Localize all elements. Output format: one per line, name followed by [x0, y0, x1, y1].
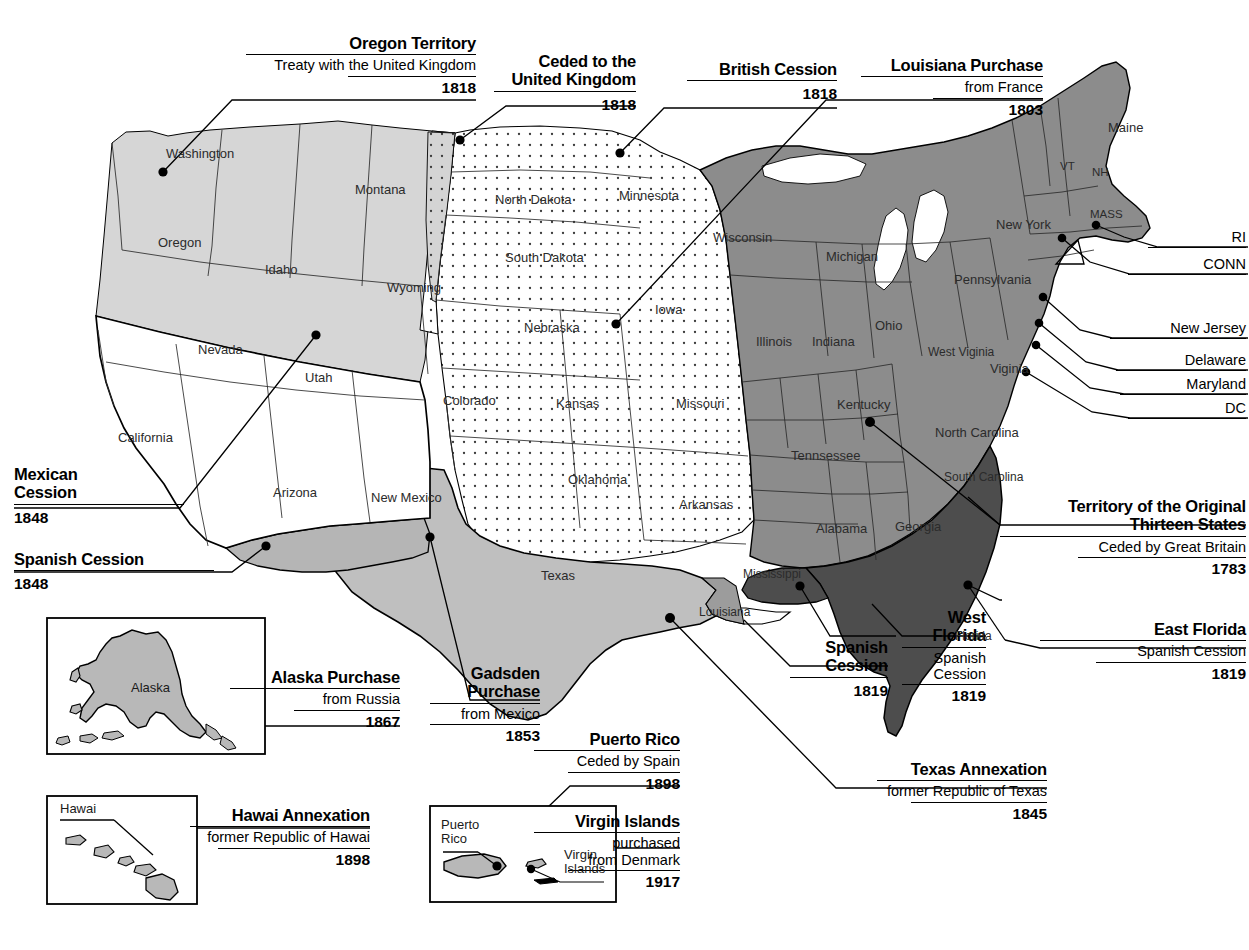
state-label-montana: Montana [355, 182, 406, 197]
callout-rhode-island: RI [1148, 229, 1246, 250]
callout-texas-annexation: Texas Annexation former Republic of Texa… [877, 760, 1047, 822]
callout-year: 1848 [14, 507, 184, 526]
callout-title: Hawai Annexation [190, 806, 370, 824]
callout-maryland: Maryland [1120, 376, 1246, 397]
state-label-nebraska: Nebraska [524, 320, 580, 335]
callout-year: 1845 [877, 805, 1047, 822]
callout-title: Gadsden Purchase [430, 664, 540, 701]
region-original-thirteen-states [700, 62, 1150, 568]
callout-puerto-rico: Puerto Rico Ceded by Spain 1898 [534, 730, 680, 792]
state-label-florida: Florida [955, 629, 992, 643]
state-label-pennsylvania: Pennsylvania [954, 272, 1031, 287]
state-label-north-carolina: North Carolina [935, 425, 1019, 440]
callout-subtitle: former Republic of Texas [877, 783, 1047, 799]
state-label-texas: Texas [541, 568, 575, 583]
callout-spanish-cession-west: Spanish Cession 1848 [14, 550, 214, 593]
state-label-nevada: Nevada [198, 342, 243, 357]
callout-year: 1917 [534, 873, 680, 890]
callout-east-florida: East Florida Spanish Cession 1819 [1040, 620, 1246, 682]
callout-louisiana-purchase: Louisiana Purchase from France 1803 [861, 56, 1043, 118]
callout-year: 1818 [687, 83, 837, 102]
state-label-ohio: Ohio [875, 318, 902, 333]
state-label-north-dakota: North Dakota [495, 192, 572, 207]
callout-title: Oregon Territory [246, 34, 476, 52]
callout-year: 1898 [190, 851, 370, 868]
callout-label: New Jersey [1110, 320, 1246, 336]
callout-year: 1819 [902, 687, 986, 704]
state-label-arkansas: Arkansas [679, 497, 733, 512]
callout-year: 1783 [1000, 560, 1246, 577]
callout-title: British Cession [687, 60, 837, 78]
callout-title: Ceded to the United Kingdom [494, 52, 636, 89]
state-label-mississippi: Mississippi [743, 567, 801, 581]
state-label-kentucky: Kentucky [837, 397, 890, 412]
state-label-new-mexico: New Mexico [371, 490, 442, 505]
callout-alaska-purchase: Alaska Purchase from Russia 1867 [230, 668, 400, 730]
state-label-new-hampshire: NH [1092, 166, 1109, 178]
state-label-alabama: Alabama [816, 521, 867, 536]
state-label-south-carolina: South Carolina [944, 470, 1023, 484]
state-label-tennessee: Tennsessee [791, 448, 860, 463]
callout-subtitle: Ceded by Great Britain [1000, 539, 1246, 555]
callout-year: 1867 [230, 713, 400, 730]
state-label-utah: Utah [305, 370, 332, 385]
callout-mexican-cession: Mexican Cession 1848 [14, 465, 184, 526]
state-label-virginia: Viginia [990, 361, 1029, 376]
callout-year: 1848 [14, 573, 214, 592]
inset-label-virgin-islands: Virgin Islands [564, 848, 605, 877]
callout-subtitle: Treaty with the United Kingdom [246, 57, 476, 73]
callout-subtitle: from Russia [230, 691, 400, 707]
callout-subtitle: Ceded by Spain [534, 753, 680, 769]
callout-label: Maryland [1120, 376, 1246, 392]
state-label-missouri: Missouri [676, 396, 724, 411]
callout-delaware: Delaware [1116, 352, 1246, 373]
callout-gadsden-purchase: Gadsden Purchase from Mexico 1853 [430, 664, 540, 745]
callout-ceded-to-uk: Ceded to the United Kingdom 1818 [494, 52, 636, 113]
callout-subtitle: from Mexico [430, 706, 540, 722]
state-label-louisiana: Louisiana [699, 605, 750, 619]
state-label-arizona: Arizona [273, 485, 317, 500]
state-label-indiana: Indiana [812, 334, 855, 349]
state-label-washington: Washington [166, 146, 234, 161]
state-label-illinois: Illinois [756, 334, 792, 349]
callout-year: 1819 [1040, 665, 1246, 682]
callout-spanish-cession-gulf: Spanish Cession 1819 [790, 638, 888, 699]
callout-subtitle: Spanish Cession [1040, 643, 1246, 659]
state-label-michigan: Michigan [826, 249, 878, 264]
state-label-oklahoma: Oklahoma [568, 472, 627, 487]
callout-title: Spanish Cession [790, 638, 888, 675]
callout-thirteen-states: Territory of the Original Thirteen State… [1000, 497, 1246, 578]
callout-label: CONN [1128, 256, 1246, 272]
state-label-minnesota: Minnesota [619, 188, 679, 203]
callout-dc: DC [1128, 400, 1246, 421]
state-label-california: California [118, 430, 173, 445]
callout-virgin-islands: Virgin Islands purchased from Denmark 19… [534, 812, 680, 890]
state-label-iowa: Iowa [655, 302, 682, 317]
callout-subtitle: from France [861, 79, 1043, 95]
state-label-wisconsin: Wisconsin [713, 230, 772, 245]
callout-new-jersey: New Jersey [1110, 320, 1246, 341]
callout-title: Puerto Rico [534, 730, 680, 748]
callout-label: Delaware [1116, 352, 1246, 368]
callout-title: East Florida [1040, 620, 1246, 638]
callout-connecticut: CONN [1128, 256, 1246, 277]
callout-hawai-annexation: Hawai Annexation former Republic of Hawa… [190, 806, 370, 868]
map-figure: Oregon Territory Treaty with the United … [0, 0, 1249, 950]
callout-british-cession: British Cession 1818 [687, 60, 837, 103]
callout-title: Mexican Cession [14, 465, 184, 502]
state-label-georgia: Georgia [895, 519, 941, 534]
callout-west-florida: West Florida Spanish Cession 1819 [902, 608, 986, 705]
state-label-kansas: Kansas [556, 396, 599, 411]
state-label-west-virginia: West Viginia [928, 345, 994, 359]
callout-year: 1898 [534, 775, 680, 792]
state-label-massachusetts: MASS [1090, 208, 1123, 220]
callout-year: 1803 [861, 101, 1043, 118]
state-label-south-dakota: South Dakota [505, 250, 584, 265]
state-label-oregon: Oregon [158, 235, 201, 250]
callout-label: DC [1128, 400, 1246, 416]
callout-title: Territory of the Original Thirteen State… [1000, 497, 1246, 534]
inset-label-hawaii: Hawai [60, 802, 96, 816]
callout-year: 1853 [430, 727, 540, 744]
callout-year: 1818 [494, 94, 636, 113]
inset-label-alaska: Alaska [131, 681, 170, 695]
